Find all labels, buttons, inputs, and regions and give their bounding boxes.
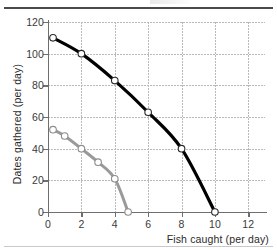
series-inner-frontier [50, 126, 132, 215]
data-point-marker [61, 133, 68, 140]
data-point-marker [95, 159, 102, 166]
data-point-marker [78, 50, 85, 57]
data-point-marker [111, 77, 118, 84]
x-axis-title: Fish caught (per day) [167, 233, 269, 245]
data-point-marker [178, 145, 185, 152]
data-point-marker [78, 145, 85, 152]
data-point-marker [111, 175, 118, 182]
data-point-marker [50, 126, 57, 133]
series-line [53, 130, 128, 212]
data-point-marker [212, 209, 219, 216]
y-axis-title: Dates gathered (per day) [11, 49, 23, 199]
series-line [53, 38, 215, 212]
series-layer [0, 0, 277, 250]
series-outer-frontier [50, 35, 219, 216]
data-point-marker [125, 209, 132, 216]
data-point-marker [50, 35, 57, 42]
data-point-marker [145, 109, 152, 116]
production-possibility-frontier-figure: 020406080100120024681012 Dates gathered … [0, 0, 277, 250]
